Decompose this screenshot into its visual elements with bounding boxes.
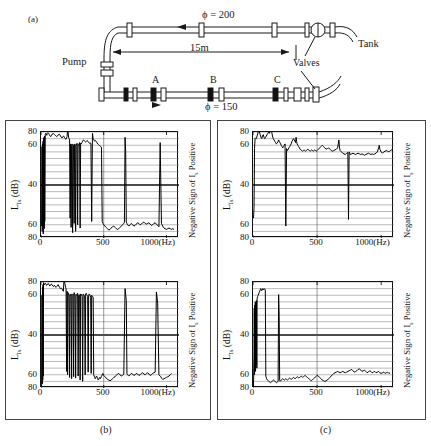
y-axis-tick: 60 — [28, 290, 37, 299]
x-axis-tick: 1000(Hz) — [141, 388, 176, 397]
figure-root: (a) Pump Tank Valves 15m ϕ = 200 ϕ = 150… — [0, 0, 431, 446]
spectrum-trace — [253, 282, 394, 388]
x-axis-tick: 0 — [38, 238, 43, 247]
measurement-point-b-label: B — [210, 74, 217, 85]
y-axis-tick: 40 — [240, 330, 249, 339]
measurement-point-a-label: A — [152, 74, 159, 85]
chart-panel-point-a-silencer: LIs (dB)Negative Sign of Is PositivePoin… — [218, 121, 425, 271]
chart-panel-point-c: LIs (dB)Negative Sign of Is PositivePoin… — [6, 271, 210, 421]
chart-panel-point-c-silencer: LIs (dB)Negative Sign of Is PositivePoin… — [218, 271, 425, 421]
y-axis-tick: 80 — [240, 127, 249, 136]
y-axis-tick: 40 — [28, 330, 37, 339]
x-axis-tick: 500 — [96, 238, 110, 247]
pipe-system-schematic: (a) Pump Tank Valves 15m ϕ = 200 ϕ = 150… — [0, 0, 431, 118]
y-axis-tick: 60 — [240, 219, 249, 228]
y-axis-tick: 60 — [28, 219, 37, 228]
right-axis-label: Negative Sign of Is Positive — [187, 293, 199, 388]
tank-label: Tank — [358, 38, 379, 49]
y-axis-tick: 80 — [28, 383, 37, 392]
x-axis-tick: 0 — [38, 388, 43, 397]
plot-frame — [252, 131, 393, 237]
y-axis-tick: 80 — [240, 277, 249, 286]
pipe-length-label: 15m — [190, 42, 209, 53]
y-axis-tick: 60 — [28, 140, 37, 149]
right-axis-label: Negative Sign of Is Positive — [402, 143, 414, 238]
y-axis-tick: 40 — [28, 180, 37, 189]
spectrum-trace — [41, 282, 179, 388]
y-axis-tick: 80 — [28, 127, 37, 136]
chart-group-b: LIs (dB)Negative Sign of Is PositivePoin… — [5, 120, 211, 420]
right-axis-label: Negative Sign of Is Positive — [187, 143, 199, 238]
y-axis-label: LIs (dB) — [10, 180, 22, 210]
y-axis-tick: 80 — [28, 233, 37, 242]
plot-frame — [252, 281, 393, 387]
spectrum-trace — [41, 132, 179, 238]
plot-area: 806040608005001000(Hz) — [40, 281, 178, 387]
y-axis-label: LIs (dB) — [222, 180, 234, 210]
x-axis-tick: 0 — [250, 238, 255, 247]
lower-pipe-diameter-label: ϕ = 150 — [205, 101, 237, 112]
x-axis-tick: 500 — [96, 388, 110, 397]
plot-area: 806040608005001000(Hz) — [252, 131, 393, 237]
y-axis-label: LIs (dB) — [10, 330, 22, 360]
subfigure-a-label: (a) — [28, 14, 38, 24]
y-axis-label: LIs (dB) — [222, 330, 234, 360]
x-axis-tick: 1000(Hz) — [355, 238, 390, 247]
y-axis-tick: 60 — [240, 140, 249, 149]
subfigure-c-label: (c) — [320, 424, 331, 435]
measurement-point-c-label: C — [274, 74, 281, 85]
subfigure-b-label: (b) — [100, 424, 112, 435]
x-axis-tick: 0 — [250, 388, 255, 397]
right-axis-label: Negative Sign of Is Positive — [402, 293, 414, 388]
y-axis-tick: 60 — [28, 369, 37, 378]
y-axis-tick: 60 — [240, 369, 249, 378]
x-axis-tick: 1000(Hz) — [355, 388, 390, 397]
y-axis-tick: 60 — [240, 290, 249, 299]
y-axis-tick: 80 — [240, 383, 249, 392]
plot-area: 806040608005001000(Hz) — [252, 281, 393, 387]
upper-pipe-diameter-label: ϕ = 200 — [202, 9, 234, 20]
valves-label: Valves — [293, 57, 320, 68]
y-axis-tick: 80 — [28, 277, 37, 286]
x-axis-tick: 500 — [309, 238, 323, 247]
pump-label: Pump — [62, 56, 87, 67]
plot-frame — [40, 281, 178, 387]
spectrum-trace — [253, 132, 394, 238]
plot-frame — [40, 131, 178, 237]
plot-area: 806040608005001000(Hz) — [40, 131, 178, 237]
x-axis-tick: 500 — [309, 388, 323, 397]
chart-group-c: LIs (dB)Negative Sign of Is PositivePoin… — [217, 120, 426, 420]
chart-panel-point-b: LIs (dB)Negative Sign of Is PositivePoin… — [6, 121, 210, 271]
x-axis-tick: 1000(Hz) — [141, 238, 176, 247]
y-axis-tick: 80 — [240, 233, 249, 242]
y-axis-tick: 40 — [240, 180, 249, 189]
